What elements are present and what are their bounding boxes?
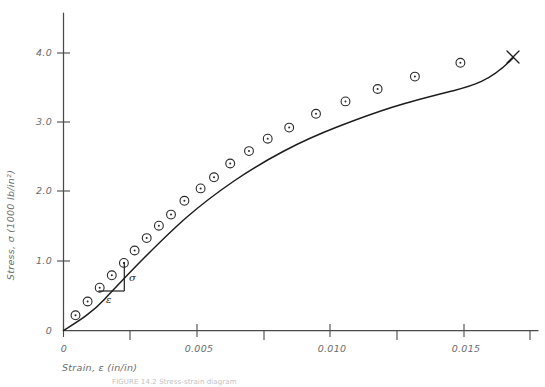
stress-strain-curve <box>64 58 514 331</box>
data-point <box>373 85 382 94</box>
data-point <box>196 184 205 193</box>
y-tick-label-2: 2.0 <box>36 185 52 196</box>
data-point <box>155 221 164 230</box>
x-tick-labels: 0 0.005 0.010 0.015 <box>61 343 481 354</box>
data-point <box>341 97 350 106</box>
data-point <box>245 147 254 156</box>
fracture-x-marker <box>507 51 519 63</box>
x-tick-label-0005: 0.005 <box>185 343 214 354</box>
data-point <box>456 58 465 67</box>
data-point <box>263 134 272 143</box>
data-point <box>71 311 80 320</box>
data-point <box>210 173 219 182</box>
data-point <box>312 109 321 118</box>
data-point <box>83 297 92 306</box>
x-tick-label-0: 0 <box>61 343 67 354</box>
y-tick-labels: 4.0 3.0 2.0 1.0 0 <box>36 47 52 336</box>
x-tick-label-0010: 0.010 <box>318 343 347 354</box>
slope-epsilon-label: ε <box>106 294 111 305</box>
figure-caption: FIGURE 14.2 Stress-strain diagram <box>112 378 237 386</box>
y-axis-title: Stress, σ (1000 lb/in²) <box>5 170 16 280</box>
data-point <box>226 159 235 168</box>
data-point <box>107 271 116 280</box>
data-point <box>167 210 176 219</box>
data-point <box>285 123 294 132</box>
y-tick-label-1: 1.0 <box>36 255 52 266</box>
y-tick-label-4: 4.0 <box>36 47 52 58</box>
data-point <box>142 234 151 243</box>
y-tick-label-3: 3.0 <box>36 116 52 127</box>
plot-canvas: 4.0 3.0 2.0 1.0 0 0 0.005 0.010 0.015 St… <box>0 0 545 387</box>
x-axis-title: Strain, ε (in/in) <box>62 362 137 373</box>
data-point <box>411 72 420 81</box>
slope-sigma-label: σ <box>129 272 137 283</box>
data-point <box>180 196 189 205</box>
x-tick-group <box>64 324 531 340</box>
stress-strain-figure: 4.0 3.0 2.0 1.0 0 0 0.005 0.010 0.015 St… <box>0 0 545 387</box>
y-tick-label-0: 0 <box>46 325 52 336</box>
data-point <box>130 246 139 255</box>
x-tick-label-0015: 0.015 <box>452 343 481 354</box>
